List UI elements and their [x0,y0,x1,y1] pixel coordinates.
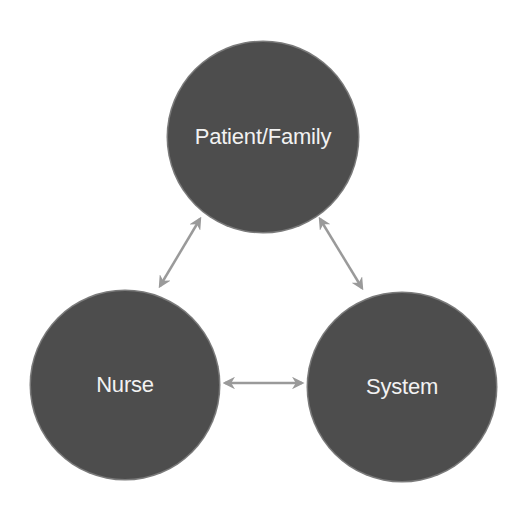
node-label: Patient/Family [195,124,332,150]
node-nurse: Nurse [31,291,219,479]
node-patient-family: Patient/Family [168,42,358,232]
node-label: System [366,374,438,400]
arrow-patient-nurse [160,219,200,286]
node-system: System [308,293,496,481]
diagram-canvas: Patient/Family Nurse System [0,0,526,506]
node-label: Nurse [96,372,154,398]
arrow-patient-system [320,219,362,288]
